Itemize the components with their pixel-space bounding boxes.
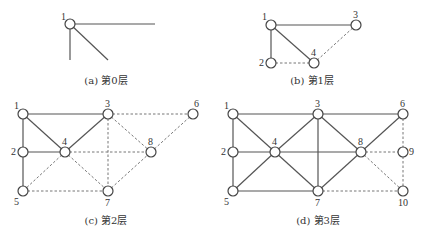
edge-1-4 (233, 114, 275, 152)
edge-1-4 (271, 25, 314, 63)
edge-stub-1-2 (70, 24, 108, 60)
edge-6-8 (361, 114, 403, 152)
node-label-3: 3 (353, 9, 358, 20)
node-6-icon (398, 109, 408, 119)
edge-1-4 (23, 114, 65, 152)
node-6-icon (188, 109, 198, 119)
node-1-icon (65, 19, 75, 29)
node-label-6: 6 (194, 98, 199, 109)
node-7-icon (103, 186, 113, 196)
panel-c-edges (23, 114, 193, 191)
edge-8-10 (361, 152, 403, 191)
node-3-icon (103, 109, 113, 119)
panel-b-nodes: 1324 (259, 9, 361, 68)
node-label-7: 7 (315, 197, 320, 208)
node-label-9: 9 (409, 146, 414, 157)
node-1-icon (266, 20, 276, 30)
edge-3-8 (108, 114, 151, 152)
panel-a-layer-0: 1 (a) 第0层 (61, 11, 155, 86)
node-label-5: 5 (224, 196, 229, 207)
node-label-8: 8 (358, 136, 363, 147)
node-label-2: 2 (221, 146, 226, 157)
node-2-icon (18, 147, 28, 157)
node-4-icon (309, 58, 319, 68)
node-9-icon (398, 147, 408, 157)
edge-3-4 (275, 114, 318, 152)
node-4-icon (60, 147, 70, 157)
edge-4-5 (23, 152, 65, 191)
graph-layers-figure: 1 (a) 第0层 1324 (b) 第1层 13624857 (c) 第2层 … (0, 0, 424, 237)
node-label-4: 4 (62, 136, 67, 147)
edge-3-8 (318, 114, 361, 152)
panel-c-layer-2: 13624857 (c) 第2层 (11, 98, 199, 226)
node-label-10: 10 (398, 197, 408, 208)
node-10-icon (398, 186, 408, 196)
panel-c-caption: (c) 第2层 (85, 214, 128, 226)
panel-a-edges (70, 24, 155, 60)
panel-b-layer-1: 1324 (b) 第1层 (259, 9, 361, 86)
edge-7-8 (108, 152, 151, 191)
node-2-icon (266, 58, 276, 68)
panel-a-nodes: 1 (61, 11, 75, 29)
panel-d-caption: (d) 第3层 (296, 214, 340, 226)
edge-6-8 (151, 114, 193, 152)
node-5-icon (228, 186, 238, 196)
panel-d-edges (233, 114, 403, 191)
node-1-icon (18, 109, 28, 119)
edge-4-5 (233, 152, 275, 191)
node-label-1: 1 (262, 11, 267, 22)
node-3-icon (351, 20, 361, 30)
node-label-1: 1 (61, 11, 66, 22)
node-3-icon (313, 109, 323, 119)
node-label-8: 8 (148, 136, 153, 147)
node-2-icon (228, 147, 238, 157)
edge-4-3 (314, 25, 356, 63)
edge-4-7 (65, 152, 108, 191)
node-label-4: 4 (311, 47, 316, 58)
edge-4-7 (275, 152, 318, 191)
panel-a-caption: (a) 第0层 (84, 74, 127, 86)
node-label-3: 3 (315, 98, 320, 109)
node-label-6: 6 (400, 98, 405, 109)
panel-d-layer-3: 13624895710 (d) 第3层 (221, 98, 414, 226)
node-label-5: 5 (14, 196, 19, 207)
node-7-icon (313, 186, 323, 196)
node-label-1: 1 (14, 100, 19, 111)
edge-3-4 (65, 114, 108, 152)
node-4-icon (270, 147, 280, 157)
node-8-icon (146, 147, 156, 157)
node-label-3: 3 (105, 98, 110, 109)
node-label-1: 1 (224, 100, 229, 111)
panel-b-caption: (b) 第1层 (290, 74, 334, 86)
edge-7-8 (318, 152, 361, 191)
node-label-4: 4 (272, 136, 277, 147)
node-5-icon (18, 186, 28, 196)
node-label-2: 2 (259, 57, 264, 68)
node-1-icon (228, 109, 238, 119)
node-label-2: 2 (11, 146, 16, 157)
node-label-7: 7 (105, 197, 110, 208)
node-8-icon (356, 147, 366, 157)
